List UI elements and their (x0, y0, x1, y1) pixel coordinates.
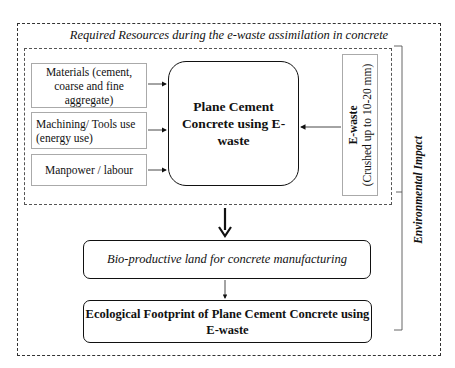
connectors (0, 0, 455, 368)
arrow-down-main (219, 208, 231, 236)
impact-bracket (394, 46, 402, 330)
